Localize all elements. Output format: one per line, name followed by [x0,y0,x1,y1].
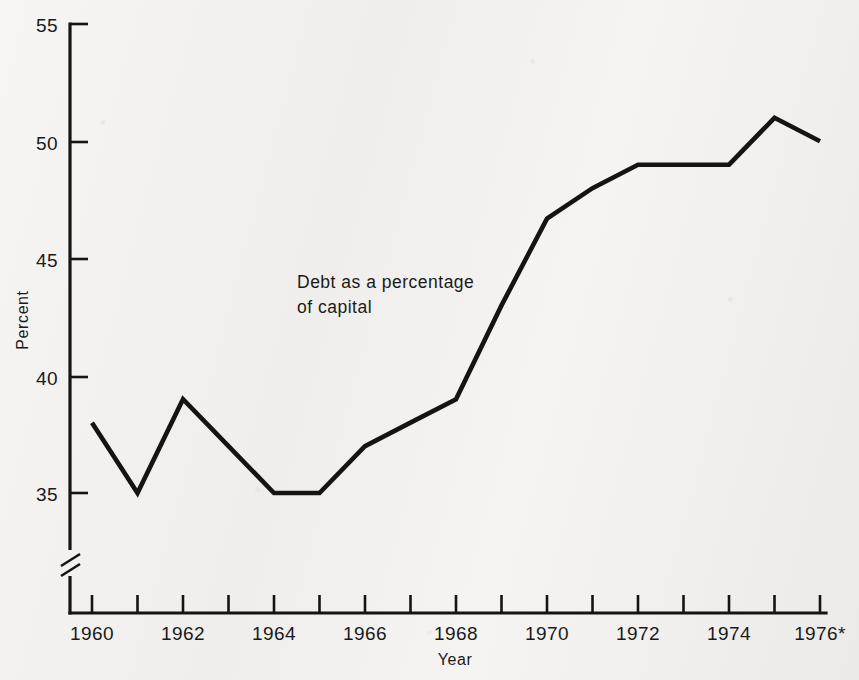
x-tick-label-1972: 1972 [616,623,660,644]
annotation-line-1: Debt as a percentage [297,272,474,292]
y-tick-label-35: 35 [36,484,58,505]
y-tick-label-50: 50 [36,133,58,154]
data-series-line [92,118,820,493]
x-axis-title: Year [438,651,473,668]
x-tick-label-1974: 1974 [707,623,751,644]
annotation-line-2: of capital [297,297,372,317]
y-axis-break-icon [61,550,80,576]
line-chart: 55 50 45 40 35 Percent 19601962196419661… [0,0,859,680]
y-axis-tick-labels: 55 50 45 40 35 [36,15,58,505]
chart-page: 55 50 45 40 35 Percent 19601962196419661… [0,0,859,680]
x-axis-tick-labels: 196019621964196619681970197219741976* [70,623,846,644]
y-axis-ticks [70,24,88,493]
x-tick-label-1970: 1970 [525,623,569,644]
x-axis-ticks [92,595,820,613]
y-tick-label-40: 40 [36,368,58,389]
x-tick-label-1966: 1966 [343,623,387,644]
x-tick-label-1968: 1968 [434,623,478,644]
x-tick-label-1960: 1960 [70,623,114,644]
x-tick-label-1962: 1962 [161,623,205,644]
series-annotation: Debt as a percentage of capital [297,272,474,317]
x-tick-label-1976: 1976* [794,623,846,644]
y-axis-title: Percent [14,290,31,349]
y-tick-label-45: 45 [36,250,58,271]
y-tick-label-55: 55 [36,15,58,36]
x-tick-label-1964: 1964 [252,623,296,644]
